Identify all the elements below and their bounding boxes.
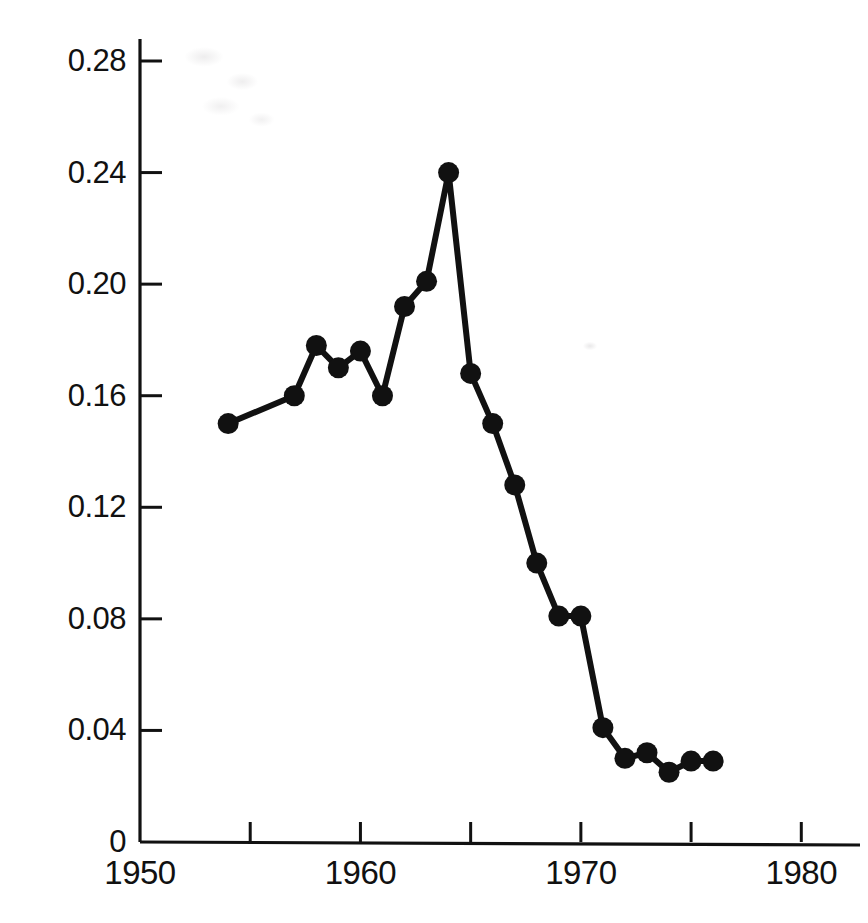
data-series-line	[228, 173, 713, 773]
data-point-marker[interactable]	[504, 474, 525, 495]
x-tick-label: 1950	[104, 854, 175, 892]
x-tick-label: 1980	[766, 854, 837, 892]
data-point-marker[interactable]	[372, 385, 393, 406]
x-tick-label: 1970	[545, 854, 616, 892]
data-point-marker[interactable]	[438, 162, 459, 183]
plot-area	[0, 0, 868, 923]
x-tick-label: 1960	[325, 854, 396, 892]
y-tick-label: 0.12	[0, 489, 126, 525]
chart-figure: Concentration (ppm) 0.280.240.200.160.12…	[0, 0, 868, 923]
data-point-marker[interactable]	[284, 385, 305, 406]
data-point-marker[interactable]	[703, 751, 724, 772]
data-point-marker[interactable]	[394, 296, 415, 317]
data-point-marker[interactable]	[416, 271, 437, 292]
y-tick-label: 0.08	[0, 601, 126, 637]
y-tick-label: 0.28	[0, 43, 126, 79]
data-point-marker[interactable]	[681, 751, 702, 772]
data-point-marker[interactable]	[592, 717, 613, 738]
data-point-marker[interactable]	[482, 413, 503, 434]
data-point-marker[interactable]	[637, 742, 658, 763]
data-point-marker[interactable]	[328, 357, 349, 378]
data-point-marker[interactable]	[548, 606, 569, 627]
data-point-marker[interactable]	[350, 341, 371, 362]
data-point-marker[interactable]	[218, 413, 239, 434]
y-tick-label: 0.16	[0, 378, 126, 414]
data-point-marker[interactable]	[570, 606, 591, 627]
y-tick-label: 0.04	[0, 712, 126, 748]
x-axis-line	[140, 842, 860, 845]
y-tick-label: 0.24	[0, 155, 126, 191]
data-point-marker[interactable]	[659, 762, 680, 783]
data-point-marker[interactable]	[460, 363, 481, 384]
data-point-marker[interactable]	[526, 553, 547, 574]
data-point-marker[interactable]	[306, 335, 327, 356]
y-tick-label: 0.20	[0, 266, 126, 302]
data-point-marker[interactable]	[614, 748, 635, 769]
